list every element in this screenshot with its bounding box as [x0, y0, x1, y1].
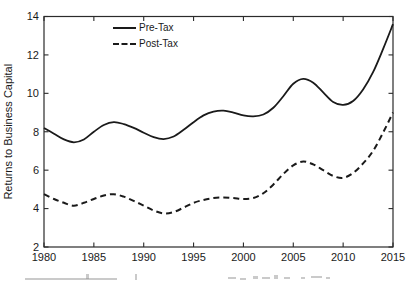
- chart-canvas: 1980198519901995200020052010201524681012…: [0, 0, 414, 282]
- x-tick-label: 2005: [281, 251, 305, 263]
- legend-label-post-tax: Post-Tax: [139, 38, 178, 49]
- y-tick-label: 12: [27, 49, 39, 61]
- x-tick-label: 1995: [181, 251, 205, 263]
- legend-item-post-tax: Post-Tax: [113, 37, 178, 50]
- y-tick-label: 14: [27, 10, 39, 22]
- plot-box: [44, 17, 393, 248]
- dashed-line-sample-icon: [113, 43, 136, 45]
- x-tick-label: 1990: [131, 251, 155, 263]
- x-tick-label: 2010: [331, 251, 355, 263]
- legend: Pre-Tax Post-Tax: [113, 21, 178, 50]
- y-tick-label: 8: [33, 126, 39, 138]
- y-tick-label: 2: [33, 241, 39, 253]
- legend-label-pre-tax: Pre-Tax: [139, 22, 173, 33]
- x-tick-label: 2000: [231, 251, 255, 263]
- y-axis-label: Returns to Business Capital: [2, 64, 14, 200]
- x-tick-label: 2015: [381, 251, 405, 263]
- legend-item-pre-tax: Pre-Tax: [113, 21, 178, 34]
- solid-line-sample-icon: [113, 27, 136, 29]
- y-tick-label: 6: [33, 164, 39, 176]
- x-tick-label: 1985: [82, 251, 106, 263]
- series-line-pre-tax: [44, 24, 393, 142]
- figure: 1980198519901995200020052010201524681012…: [0, 0, 414, 282]
- y-tick-label: 10: [27, 87, 39, 99]
- series-line-post-tax: [44, 113, 393, 214]
- y-tick-label: 4: [33, 202, 39, 214]
